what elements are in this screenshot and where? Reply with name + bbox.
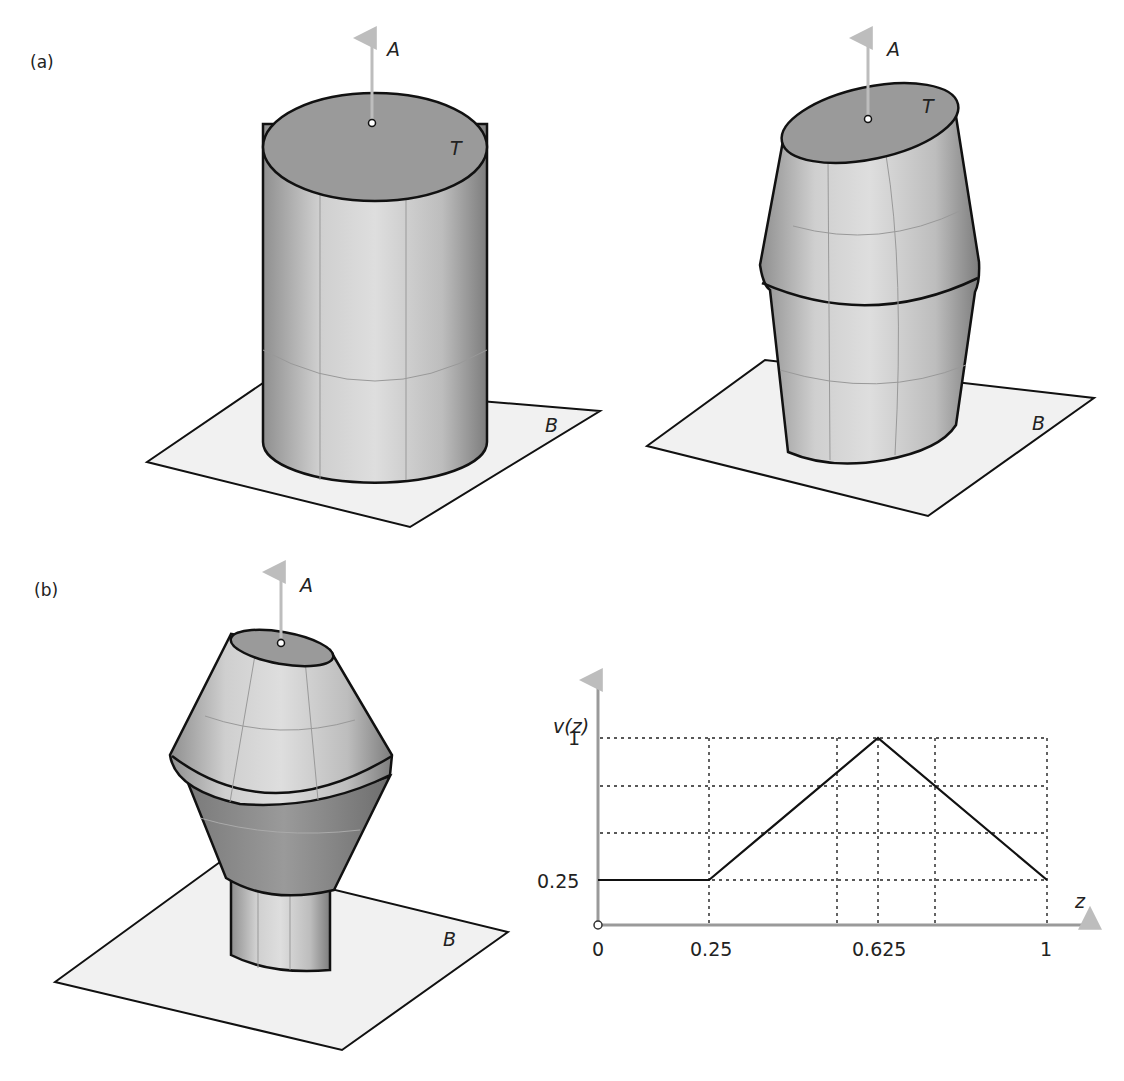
y-tick-1: 1 (568, 727, 580, 749)
axis-label-a: A (298, 574, 313, 596)
x-axis-label: z (1074, 890, 1086, 912)
y-tick-0-25: 0.25 (537, 870, 579, 892)
panel-a-label: (a) (30, 52, 54, 72)
cylinder-figure-straight: A T B (147, 38, 600, 527)
base-label-b: B (1032, 412, 1045, 434)
x-tick-0-625: 0.625 (852, 938, 906, 960)
chart-grid (600, 738, 1047, 925)
panel-label-a: (a) (30, 52, 54, 72)
top-label-t: T (922, 95, 935, 117)
barrel-body (760, 110, 979, 464)
x-tick-1: 1 (1040, 938, 1052, 960)
axis-label-a: A (385, 38, 400, 60)
series-v-of-z (598, 738, 1047, 880)
profile-chart: v(z) z 1 0.25 0 0.25 0.625 1 (537, 680, 1090, 960)
x-tick-0: 0 (592, 938, 604, 960)
cylinder-figure-barrel: A T B (647, 38, 1094, 516)
base-label-b: B (545, 414, 558, 436)
top-label-t: T (450, 137, 463, 159)
figure-canvas: (a) A T B A T B (b) (0, 0, 1124, 1081)
x-tick-0-25: 0.25 (690, 938, 732, 960)
panel-label-b: (b) (34, 580, 58, 600)
spindle-figure: A B (55, 572, 508, 1050)
base-label-b: B (443, 928, 456, 950)
axis-label-a: A (885, 38, 900, 60)
panel-b-label: (b) (34, 580, 58, 600)
